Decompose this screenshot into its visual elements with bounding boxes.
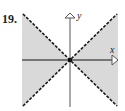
- origin-point: [68, 58, 72, 62]
- graph: y x: [0, 0, 125, 111]
- y-axis-arrow-icon: [65, 13, 75, 18]
- y-axis-label: y: [76, 10, 82, 21]
- x-axis-label: x: [109, 44, 115, 55]
